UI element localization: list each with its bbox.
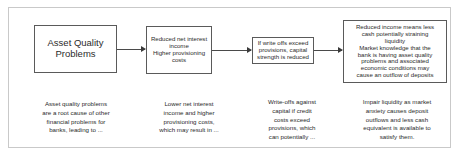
diagram-frame: Asset Quality Problems Reduced net inter… — [8, 7, 451, 148]
arrow-connector-3-to-4 — [314, 50, 342, 51]
flow-node-label: Asset Quality Problems — [46, 38, 106, 59]
flow-node-label: If write offs exceed provisions, capital… — [255, 40, 311, 60]
flow-node-label: Reduced income means less cash potential… — [354, 24, 436, 79]
flow-node-capital-strength-reduced: If write offs exceed provisions, capital… — [252, 37, 314, 64]
flow-node-reduced-net-interest-income: Reduced net interest income Higher provi… — [146, 26, 212, 74]
flow-node-asset-quality-problems: Asset Quality Problems — [34, 25, 117, 73]
arrow-connector-1-to-2 — [117, 49, 145, 50]
flow-node-reduced-income-liquidity: Reduced income means less cash potential… — [343, 20, 447, 83]
flow-caption-asset-quality-problems: Asset quality problems are a root cause … — [22, 100, 130, 135]
flow-caption-write-offs-against-capital: Write-offs against capital if credit cos… — [246, 98, 338, 142]
flow-node-label: Reduced net interest income Higher provi… — [149, 36, 209, 63]
arrow-connector-2-to-3 — [212, 50, 251, 51]
flow-caption-impair-liquidity: Impair liquidity as market anxiety cause… — [342, 98, 452, 142]
flow-caption-reduced-net-interest-income: Lower net interest income and higher pro… — [136, 100, 242, 135]
